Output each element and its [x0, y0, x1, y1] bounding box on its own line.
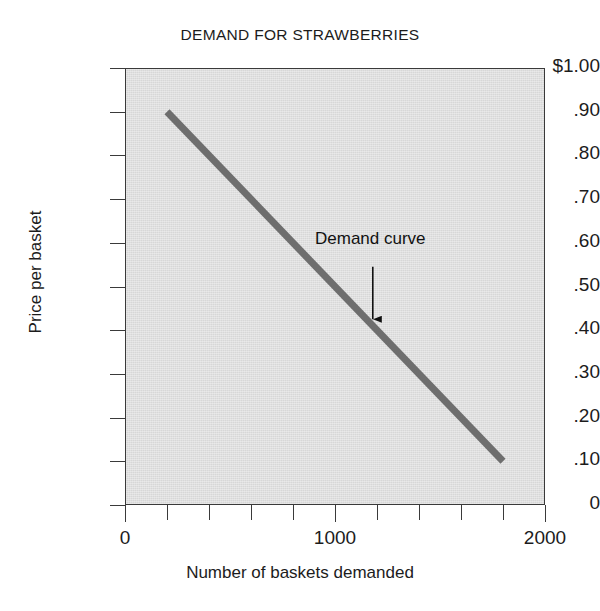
y-axis-tick-label: .60 — [496, 230, 600, 252]
y-axis-tick-label: .30 — [496, 361, 600, 383]
x-axis-minor-tick — [377, 505, 378, 520]
x-axis-minor-tick — [209, 505, 210, 520]
y-axis-tick — [110, 505, 125, 506]
x-axis-minor-tick — [167, 505, 168, 520]
y-axis-tick — [110, 243, 125, 244]
x-axis-minor-tick — [419, 505, 420, 520]
y-axis-tick-label: 0 — [496, 492, 600, 514]
x-axis-title: Number of baskets demanded — [0, 563, 600, 583]
y-axis-tick — [110, 155, 125, 156]
demand-chart-figure: DEMAND FOR STRAWBERRIES $1.00.90.80.70.6… — [0, 0, 600, 611]
y-axis-tick — [110, 330, 125, 331]
x-axis-major-tick — [545, 505, 546, 522]
plot-area — [125, 68, 545, 505]
y-axis-tick — [110, 461, 125, 462]
annotation-label: Demand curve — [315, 229, 426, 249]
y-axis-tick-label: .40 — [496, 317, 600, 339]
y-axis-tick-label: .80 — [496, 142, 600, 164]
y-axis-tick-label: $1.00 — [496, 55, 600, 77]
x-axis-tick-label: 0 — [120, 527, 131, 549]
x-axis-tick-label: 1000 — [314, 527, 356, 549]
y-axis-tick — [110, 68, 125, 69]
x-axis-major-tick — [125, 505, 126, 522]
y-axis-tick-label: .50 — [496, 274, 600, 296]
plot-texture — [126, 69, 544, 504]
y-axis-tick — [110, 287, 125, 288]
y-axis-tick-label: .70 — [496, 186, 600, 208]
x-axis-minor-tick — [293, 505, 294, 520]
y-axis-tick-label: .90 — [496, 99, 600, 121]
y-axis-tick-label: .10 — [496, 448, 600, 470]
y-axis-tick — [110, 112, 125, 113]
y-axis-title: Price per basket — [26, 172, 46, 372]
y-axis-tick — [110, 418, 125, 419]
y-axis-tick-label: .20 — [496, 405, 600, 427]
x-axis-tick-label: 2000 — [524, 527, 566, 549]
x-axis-minor-tick — [251, 505, 252, 520]
y-axis-tick — [110, 374, 125, 375]
y-axis-tick — [110, 199, 125, 200]
x-axis-minor-tick — [461, 505, 462, 520]
chart-title: DEMAND FOR STRAWBERRIES — [0, 26, 600, 44]
x-axis-minor-tick — [503, 505, 504, 520]
x-axis-major-tick — [335, 505, 336, 522]
